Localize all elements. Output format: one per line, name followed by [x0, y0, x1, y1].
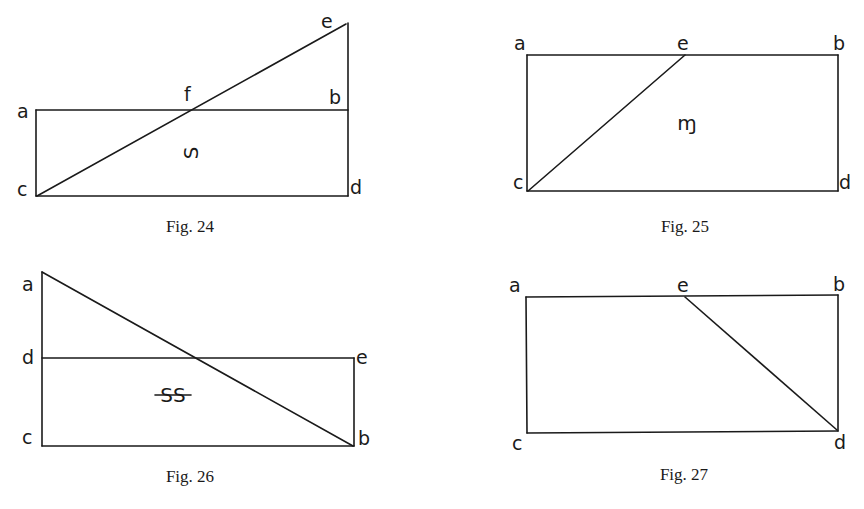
vertex-label-b: b	[833, 273, 845, 295]
figure-27: a b c d e Fig. 27	[509, 273, 846, 484]
vertex-label-c: c	[17, 178, 27, 200]
vertex-label-a: a	[17, 100, 29, 122]
vertex-label-c: c	[513, 171, 523, 193]
vertex-label-d: d	[834, 431, 846, 453]
vertex-label-c: c	[22, 426, 32, 448]
vertex-label-a: a	[509, 274, 521, 296]
edge-ab-diagonal	[42, 272, 353, 446]
figure-caption: Fig. 27	[660, 465, 709, 484]
vertex-label-a: a	[22, 273, 34, 295]
vertex-label-e: e	[321, 10, 333, 32]
region-label-s: S	[179, 147, 203, 160]
edge-ed-diagonal	[685, 297, 837, 430]
vertex-label-e: e	[356, 346, 368, 368]
vertex-label-e: e	[677, 274, 689, 296]
edge-cd	[527, 431, 838, 433]
vertex-label-d: d	[22, 346, 34, 368]
figure-caption: Fig. 26	[166, 467, 214, 486]
figure-25: a b c d e ɱ Fig. 25	[513, 32, 851, 236]
edge-ac	[526, 297, 527, 433]
vertex-label-a: a	[514, 32, 526, 54]
figures-canvas: a b c d e f S Fig. 24 a b c d e ɱ Fig. 2…	[0, 0, 864, 509]
figure-24: a b c d e f S Fig. 24	[17, 10, 362, 236]
vertex-label-d: d	[839, 171, 851, 193]
vertex-label-b: b	[833, 32, 845, 54]
vertex-label-c: c	[512, 432, 522, 454]
vertex-label-d: d	[350, 176, 362, 198]
figure-caption: Fig. 24	[166, 217, 215, 236]
vertex-label-b: b	[358, 427, 370, 449]
vertex-label-f: f	[184, 83, 192, 105]
region-label-m: ɱ	[677, 111, 696, 135]
figure-caption: Fig. 25	[661, 217, 709, 236]
edge-ce-diagonal	[528, 55, 685, 191]
vertex-label-b: b	[329, 86, 341, 108]
region-label-ss: SS	[155, 383, 191, 407]
figure-26: a d c e b SS Fig. 26	[22, 272, 370, 486]
vertex-label-e: e	[677, 32, 689, 54]
